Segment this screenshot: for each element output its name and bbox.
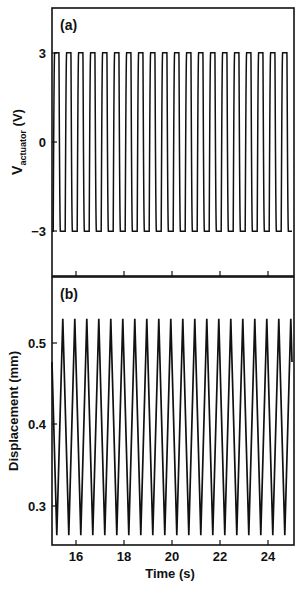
ytick-label: 3 [39, 46, 46, 61]
figure: (a) 3 0 −3 Vactuator (V) (b) 0.5 0.4 0.3… [0, 0, 301, 591]
xtick-label: 18 [117, 549, 131, 564]
actuator-voltage-line [52, 53, 292, 232]
x-axis-label: Time (s) [145, 566, 195, 581]
panel-a-label: (a) [60, 17, 77, 33]
ytick-label: 0.3 [28, 499, 46, 514]
panel-a: (a) 3 0 −3 Vactuator (V) [9, 8, 294, 276]
xtick-labels: 1618202224 [69, 549, 276, 564]
ytick-label: 0.5 [28, 336, 46, 351]
ytick-label: 0 [39, 135, 46, 150]
panel-a-ylabel: Vactuator (V) [9, 109, 28, 175]
displacement-line [52, 319, 292, 536]
xtick-label: 20 [165, 549, 179, 564]
xtick-label: 24 [261, 549, 276, 564]
xtick-label: 16 [69, 549, 83, 564]
panel-b: (b) 0.5 0.4 0.3 Displacement (mm) [6, 277, 294, 545]
ytick-label: −3 [31, 224, 46, 239]
xtick-label: 22 [213, 549, 227, 564]
panel-b-label: (b) [60, 286, 78, 302]
ytick-label: 0.4 [28, 417, 47, 432]
panel-b-ylabel: Displacement (mm) [6, 351, 21, 471]
